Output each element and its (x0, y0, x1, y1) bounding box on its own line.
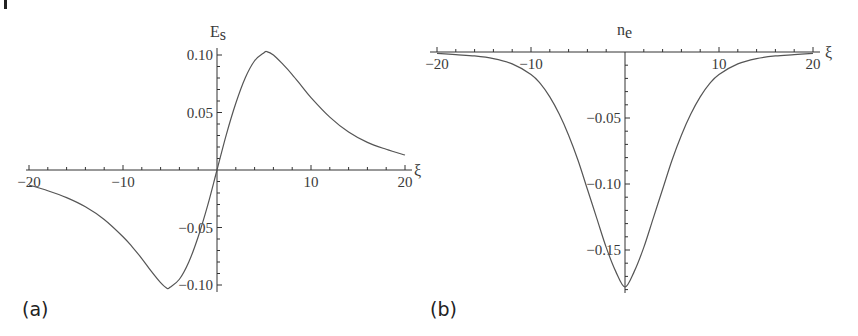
y-tick-label: −0.15 (586, 242, 621, 258)
x-tick-label: −10 (111, 174, 134, 190)
chart-b-xlabel: ξ (825, 44, 832, 61)
x-tick-label: 20 (806, 56, 821, 72)
panel-label-b: (b) (430, 298, 457, 320)
chart-a-ylabel: Es (210, 23, 226, 43)
chart-a: −20−1010200.100.05−0.05−0.10 Es ξ (17, 23, 421, 293)
y-tick-label: −0.10 (178, 277, 213, 293)
chart-b-ylabel: ne (617, 21, 632, 41)
x-tick-label: 10 (304, 174, 319, 190)
y-tick-label: −0.05 (178, 220, 213, 236)
chart-b: −20−101020−0.05−0.10−0.15 ne ξ (425, 21, 832, 293)
chart-a-axes: −20−1010200.100.05−0.05−0.10 (17, 47, 412, 293)
chart-b-axes: −20−101020−0.05−0.10−0.15 (425, 47, 820, 293)
y-tick-label: −0.10 (586, 176, 621, 192)
panel-label-a: (a) (22, 298, 48, 320)
figure-canvas: −20−1010200.100.05−0.05−0.10 Es ξ −20−10… (0, 0, 858, 336)
chart-a-xlabel: ξ (414, 162, 421, 179)
y-tick-label: 0.10 (187, 47, 213, 63)
y-tick-label: 0.05 (187, 105, 213, 121)
x-tick-label: 20 (398, 174, 413, 190)
y-tick-label: −0.05 (586, 110, 621, 126)
x-tick-label: 10 (712, 56, 727, 72)
x-tick-label: −20 (425, 56, 448, 72)
